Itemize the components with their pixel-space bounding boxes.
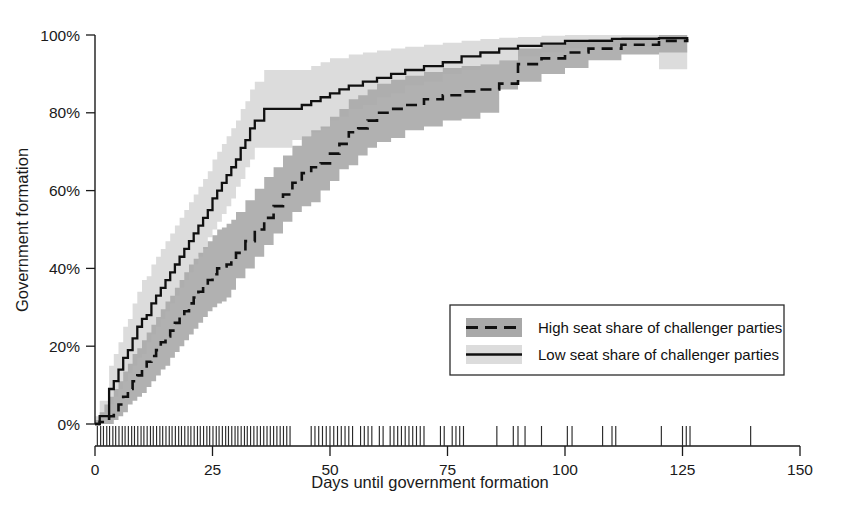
y-axis-title: Government formation <box>13 148 31 312</box>
legend-box <box>450 305 784 375</box>
y-tick-label: 60% <box>49 182 80 199</box>
y-tick-label: 40% <box>49 260 80 277</box>
y-tick-label: 20% <box>49 338 80 355</box>
survival-chart: 0%20%40%60%80%100% 0255075100125150 Days… <box>0 0 846 513</box>
x-axis-title: Days until government formation <box>311 473 549 491</box>
x-tick-label: 150 <box>787 461 813 478</box>
x-tick-label: 0 <box>91 461 100 478</box>
y-tick-label: 80% <box>49 104 80 121</box>
y-tick-label: 0% <box>58 416 81 433</box>
x-tick-label: 25 <box>204 461 221 478</box>
legend-label-high-seat-share: High seat share of challenger parties <box>538 319 782 336</box>
legend-label-low-seat-share: Low seat share of challenger parties <box>538 346 779 363</box>
x-tick-label: 125 <box>670 461 696 478</box>
y-tick-label: 100% <box>40 27 80 44</box>
legend: High seat share of challenger parties Lo… <box>450 305 784 375</box>
chart-page: 0%20%40%60%80%100% 0255075100125150 Days… <box>0 0 846 513</box>
x-tick-label: 100 <box>552 461 578 478</box>
